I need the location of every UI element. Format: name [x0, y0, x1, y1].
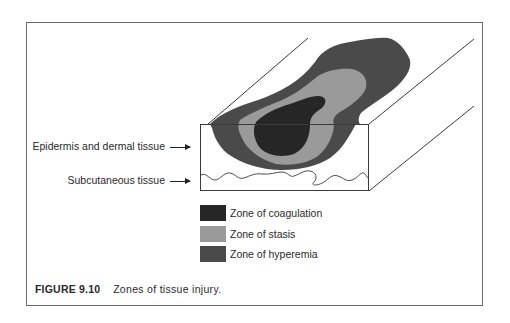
swatch-coagulation-icon — [200, 205, 226, 221]
legend-item-coagulation: Zone of coagulation — [200, 203, 322, 224]
epidermis-label: Epidermis and dermal tissue — [33, 140, 165, 152]
legend-item-hyperemia: Zone of hyperemia — [200, 244, 322, 265]
figure-caption: FIGURE 9.10 Zones of tissue injury. — [35, 283, 221, 295]
legend-item-stasis: Zone of stasis — [200, 224, 322, 245]
subcutaneous-label: Subcutaneous tissue — [68, 174, 165, 186]
subcutaneous-boundary-line — [201, 171, 368, 185]
legend-label: Zone of hyperemia — [230, 248, 318, 260]
block-bottom-right-edge — [369, 106, 474, 191]
tissue-block-diagram — [0, 0, 510, 323]
figure-number: FIGURE 9.10 — [35, 283, 100, 295]
swatch-stasis-icon — [200, 226, 226, 242]
legend-label: Zone of stasis — [230, 228, 295, 240]
legend-label: Zone of coagulation — [230, 207, 322, 219]
epidermis-arrow-icon — [170, 147, 190, 148]
legend: Zone of coagulation Zone of stasis Zone … — [200, 203, 322, 265]
subcutaneous-arrow-icon — [170, 181, 190, 182]
swatch-hyperemia-icon — [200, 246, 226, 262]
figure-caption-text: Zones of tissue injury. — [113, 283, 221, 295]
